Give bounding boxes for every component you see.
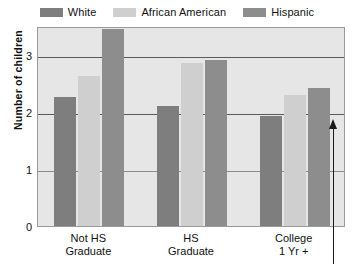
bar [260,116,282,226]
bar [157,106,179,226]
bar [78,76,100,226]
legend-swatch-african-american [113,8,136,17]
y-tick-label-0: 0 [12,222,32,233]
legend-swatch-white [40,8,63,17]
bar [205,60,227,226]
y-tick-label-2: 2 [12,107,32,118]
bar [54,97,76,226]
x-category-label: HSGraduate [141,232,241,258]
x-category-line: HS [141,232,241,245]
replacement-level-arrow-shaft [333,121,334,264]
bar [102,29,124,226]
x-category-line: College [244,232,344,245]
plot-area [37,27,345,227]
y-tick-label-1: 1 [12,164,32,175]
x-category-line: Not HS [38,232,138,245]
chart-legend: White African American Hispanic [0,0,354,24]
legend-item-white: White [40,7,97,18]
legend-swatch-hispanic [243,8,266,17]
replacement-level-arrow-head [329,119,337,129]
legend-label-hispanic: Hispanic [271,7,314,18]
bar [181,63,203,226]
x-category-label: Not HSGraduate [38,232,138,258]
bar [284,95,306,226]
legend-item-african-american: African American [113,7,226,18]
y-tick-label-3: 3 [12,50,32,61]
gridline-3 [38,57,344,58]
legend-item-hispanic: Hispanic [243,7,314,18]
x-category-line: Graduate [38,245,138,258]
x-category-label: College1 Yr + [244,232,344,258]
legend-label-white: White [68,7,97,18]
x-category-line: Graduate [141,245,241,258]
x-category-line: 1 Yr + [244,245,344,258]
y-axis-title: Number of children [12,0,24,160]
bar [308,88,330,226]
legend-label-african-american: African American [141,7,226,18]
